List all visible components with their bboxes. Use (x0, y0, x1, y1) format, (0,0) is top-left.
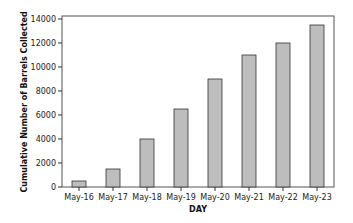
x-tick-label: May-17 (98, 193, 127, 202)
x-tick-label: May-22 (268, 193, 297, 202)
y-tick-label: 6000 (36, 111, 56, 120)
y-tick-label: 8000 (36, 87, 56, 96)
x-tick-label: May-18 (132, 193, 161, 202)
plot-frame (62, 16, 334, 187)
y-tick-label: 12000 (31, 39, 56, 48)
x-tick-label: May-16 (64, 193, 93, 202)
y-axis-title: Cumulative Number of Barrels Collected (20, 11, 29, 192)
bar (310, 25, 324, 187)
bar (208, 79, 222, 187)
y-tick-label: 0 (51, 183, 56, 192)
y-tick-label: 10000 (31, 63, 56, 72)
x-tick-label: May-21 (234, 193, 263, 202)
x-tick-label: May-23 (302, 193, 331, 202)
bar (72, 181, 86, 187)
plot-area: 02000400060008000100001200014000May-16Ma… (31, 15, 334, 202)
y-tick-label: 14000 (31, 15, 56, 24)
bar-chart: 02000400060008000100001200014000May-16Ma… (0, 0, 353, 223)
bar (242, 55, 256, 187)
x-tick-label: May-20 (200, 193, 229, 202)
bar (140, 139, 154, 187)
y-tick-label: 2000 (36, 159, 56, 168)
y-tick-label: 4000 (36, 135, 56, 144)
x-tick-label: May-19 (166, 193, 195, 202)
bar (106, 169, 120, 187)
x-axis-title: DAY (189, 205, 207, 214)
bar (174, 109, 188, 187)
bar (276, 43, 290, 187)
